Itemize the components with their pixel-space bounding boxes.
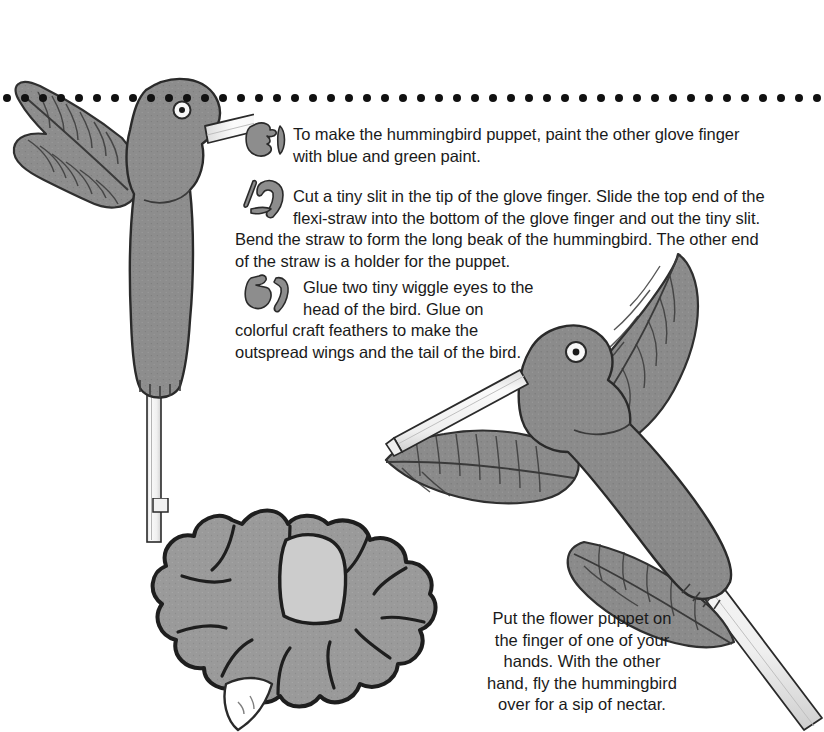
divider-dot xyxy=(291,94,299,102)
step-number-5-icon xyxy=(243,272,293,316)
flower-puppet-caption: Put the flower puppet on the finger of o… xyxy=(432,608,732,716)
divider-dot xyxy=(345,94,353,102)
divider-dot xyxy=(453,94,461,102)
divider-dot xyxy=(255,94,263,102)
caption-line-4: hand, fly the hummingbird xyxy=(432,673,732,695)
step-4-text-continued: Bend the straw to form the long beak of … xyxy=(235,229,769,272)
wiggle-eye-icon xyxy=(566,342,586,362)
divider-dot xyxy=(615,94,623,102)
flower-center-petal xyxy=(280,535,346,624)
divider-dot xyxy=(687,94,695,102)
caption-line-5: over for a sip of nectar. xyxy=(432,694,732,716)
divider-dot xyxy=(651,94,659,102)
divider-dot xyxy=(309,94,317,102)
step-4-line-1: Cut a tiny slit in the tip of the glove … xyxy=(293,187,765,205)
straw-stub-icon xyxy=(153,498,168,512)
divider-dot xyxy=(363,94,371,102)
divider-dot xyxy=(327,94,335,102)
divider-dot xyxy=(759,94,767,102)
caption-line-3: hands. With the other xyxy=(432,651,732,673)
divider-dot xyxy=(399,94,407,102)
step-4-line-2: flexi-straw into the bottom of the glove… xyxy=(293,209,760,227)
divider-dot xyxy=(741,94,749,102)
step-number-3-icon xyxy=(244,120,288,160)
divider-dot xyxy=(273,94,281,102)
step-3-text: To make the hummingbird puppet, paint th… xyxy=(293,124,763,167)
divider-dot xyxy=(633,94,641,102)
step-5-line-1: Glue two tiny wiggle eyes to xyxy=(303,278,506,296)
divider-dot xyxy=(579,94,587,102)
step-4-line-3: Bend the straw to form the long beak of … xyxy=(235,230,759,248)
wiggle-eye-icon xyxy=(174,102,191,119)
divider-dot xyxy=(705,94,713,102)
step-5-line-3: colorful craft feathers to make the xyxy=(235,321,478,339)
divider-dot xyxy=(435,94,443,102)
step-4-text-indented: Cut a tiny slit in the tip of the glove … xyxy=(293,186,765,229)
step-number-4-icon xyxy=(243,177,291,223)
flower-puppet-illustration xyxy=(138,498,438,732)
craft-instruction-page: To make the hummingbird puppet, paint th… xyxy=(0,0,824,732)
hummingbird-puppet-top-left-illustration xyxy=(0,30,254,550)
step-5-text-indented: Glue two tiny wiggle eyes to the head of… xyxy=(303,277,553,320)
divider-dot xyxy=(723,94,731,102)
step-4-line-4: of the straw is a holder for the puppet. xyxy=(235,252,510,270)
divider-dot xyxy=(471,94,479,102)
divider-dot xyxy=(561,94,569,102)
divider-dot xyxy=(507,94,515,102)
step-5-line-4: outspread wings and the tail of xyxy=(235,343,457,361)
caption-line-1: Put the flower puppet on xyxy=(432,608,732,630)
divider-dot xyxy=(417,94,425,102)
caption-line-2: the finger of one of your xyxy=(432,630,732,652)
divider-dot xyxy=(795,94,803,102)
divider-dot xyxy=(543,94,551,102)
step-5-text-continued: colorful craft feathers to make the outs… xyxy=(235,320,525,363)
divider-dot xyxy=(489,94,497,102)
divider-dot xyxy=(381,94,389,102)
craft-feather-wing-icon xyxy=(14,82,140,208)
divider-dot xyxy=(669,94,677,102)
step-5-line-5: the bird. xyxy=(462,343,521,361)
divider-dot xyxy=(525,94,533,102)
divider-dot xyxy=(777,94,785,102)
divider-dot xyxy=(597,94,605,102)
divider-dot xyxy=(813,94,821,102)
